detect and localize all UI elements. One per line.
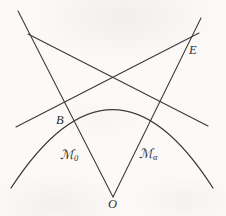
tangent-left-through-b-to-e	[16, 33, 199, 127]
label-vertex-o: O	[108, 198, 117, 211]
geometry-figure: E B O ℳ0 ℳα	[0, 0, 226, 216]
script-m-subscript: α	[153, 152, 157, 162]
ray-o-to-upper-right	[113, 18, 201, 197]
script-m-glyph: ℳ	[139, 146, 153, 161]
label-point-e: E	[189, 44, 197, 57]
circular-arc	[11, 110, 213, 189]
ray-o-to-upper-left	[18, 11, 113, 197]
script-m-glyph: ℳ	[60, 147, 74, 162]
label-region-m-zero: ℳ0	[60, 148, 78, 163]
tangent-right-to-upper-left	[28, 34, 208, 126]
label-point-b: B	[56, 114, 64, 127]
script-m-subscript: 0	[74, 153, 78, 163]
figure-canvas	[0, 0, 226, 216]
label-region-m-alpha: ℳα	[139, 147, 157, 162]
